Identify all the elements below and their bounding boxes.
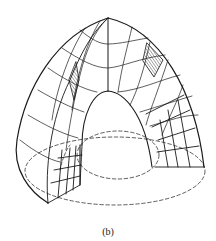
outer-dome-surface — [16, 18, 204, 203]
right-cut-grid — [160, 120, 168, 167]
right-cut-grid — [157, 146, 199, 152]
left-cut-grid — [54, 165, 81, 170]
left-cut-grid — [58, 150, 62, 198]
mesh-parallel — [118, 75, 180, 92]
outer-base-ellipse — [25, 137, 205, 205]
curvilinear-grid — [20, 18, 198, 170]
inner-arch — [82, 91, 152, 167]
mesh-parallel — [20, 140, 60, 162]
left-cut-grid — [73, 146, 76, 190]
figure-caption: (b) — [0, 226, 216, 237]
left-cut-grid — [66, 148, 70, 194]
right-cut-grid — [178, 100, 190, 167]
mesh-parallel — [28, 115, 78, 138]
mesh-parallel — [140, 96, 192, 112]
right-cut-grid — [152, 110, 190, 127]
outer-left-edge — [16, 18, 108, 203]
outer-left-inner-rim — [47, 18, 108, 203]
hatched-cell-left — [69, 62, 79, 100]
outer-right-edge — [108, 18, 204, 167]
base-ellipses — [25, 131, 205, 205]
mesh-parallel — [80, 30, 148, 44]
dome-diagram — [0, 0, 216, 241]
hatched-cell-right — [143, 43, 163, 77]
left-cut-grid — [51, 176, 80, 183]
mesh-meridian — [118, 27, 132, 92]
